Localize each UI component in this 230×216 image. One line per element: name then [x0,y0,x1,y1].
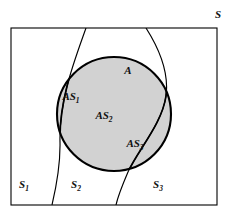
intersection-label-as3-base: AS [125,137,139,149]
event-label-A: A [123,64,131,76]
event-circle-A [57,57,171,171]
venn-diagram-figure: S A AS1 AS2 AS3 S1 S2 S3 [0,0,230,216]
partition-label-s2-subscript: 2 [76,184,81,193]
intersection-label-as1-subscript: 1 [76,96,80,105]
universe-label-S: S [215,8,221,20]
intersection-label-as2-subscript: 2 [108,115,113,124]
venn-diagram-canvas: S A AS1 AS2 AS3 S1 S2 S3 [0,0,230,216]
intersection-label-as3-subscript: 3 [139,143,144,152]
intersection-label-as2-base: AS [94,109,108,121]
intersection-label-as1-base: AS [61,90,75,102]
partition-label-s3-subscript: 3 [158,184,163,193]
partition-label-s1-subscript: 1 [25,184,29,193]
